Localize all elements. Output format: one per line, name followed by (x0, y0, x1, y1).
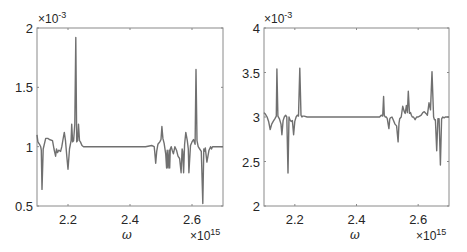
left-plot: 0.511.52 2.22.42.6 ×10-3 ω ×1015 (15, 10, 223, 243)
y-tick-label: 1 (26, 140, 33, 155)
y-tick-label: 2 (26, 21, 33, 36)
x-tick-label: 2.2 (286, 212, 304, 227)
x-tick-label: 2.2 (59, 212, 77, 227)
chart-canvas: 0.511.52 2.22.42.6 ×10-3 ω ×1015 22.533.… (0, 0, 467, 252)
left-x-tick-labels: 2.22.42.6 (59, 212, 201, 227)
y-tick-label: 1.5 (15, 80, 33, 95)
y-tick-label: 2.5 (242, 155, 260, 170)
y-tick-label: 0.5 (15, 199, 33, 214)
y-tick-label: 3 (253, 110, 260, 125)
left-x-axis-label: ω (122, 228, 132, 242)
y-tick-label: 4 (253, 21, 260, 36)
y-tick-label: 3.5 (242, 66, 260, 81)
right-y-multiplier: ×10-3 (264, 10, 292, 26)
x-tick-label: 2.6 (183, 212, 201, 227)
x-tick-label: 2.4 (121, 212, 139, 227)
y-tick-label: 2 (253, 199, 260, 214)
x-tick-label: 2.4 (347, 212, 365, 227)
right-x-axis-label: ω (350, 228, 360, 242)
right-x-tick-labels: 2.22.42.6 (286, 212, 427, 227)
left-y-multiplier: ×10-3 (38, 10, 66, 26)
left-y-tick-labels: 0.511.52 (15, 21, 33, 214)
right-y-tick-labels: 22.533.54 (242, 21, 260, 214)
x-tick-label: 2.6 (409, 212, 427, 227)
right-plot: 22.533.54 2.22.42.6 ×10-3 ω ×1015 (242, 10, 449, 243)
left-x-multiplier: ×1015 (190, 227, 220, 243)
right-x-multiplier: ×1015 (416, 227, 446, 243)
